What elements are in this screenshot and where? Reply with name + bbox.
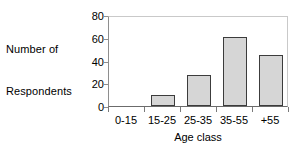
x-axis-tick-label: +55 (261, 114, 280, 127)
x-axis-tick-mark (144, 107, 145, 112)
bar-chart-figure: Number of Respondents 020406080 0-1515-2… (0, 0, 301, 154)
bar[interactable] (151, 95, 175, 106)
bar[interactable] (223, 37, 247, 106)
x-axis-tick-label: 15-25 (148, 114, 176, 127)
y-axis-tick-label: 20 (78, 79, 104, 90)
bar[interactable] (259, 55, 283, 106)
x-axis-tick-marks (108, 107, 289, 112)
y-axis-tick-labels: 020406080 (76, 16, 104, 107)
x-axis-tick-mark (288, 107, 289, 112)
x-axis-tick-mark (252, 107, 253, 112)
bar-slot (145, 17, 181, 106)
y-axis-tick-label: 80 (78, 11, 104, 22)
x-axis-tick-label: 0-15 (115, 114, 137, 127)
plot-area (108, 16, 288, 107)
x-axis-tick-mark (216, 107, 217, 112)
x-axis-tick-labels: 0-1515-2525-3535-55+55 (108, 114, 288, 128)
y-axis-tick-label: 60 (78, 34, 104, 45)
y-axis-tick-label: 0 (78, 102, 104, 113)
bar-slot (253, 17, 289, 106)
x-axis-tick-label: 25-35 (184, 114, 212, 127)
x-axis-tick-mark (108, 107, 109, 112)
bar-slot (217, 17, 253, 106)
bar[interactable] (187, 75, 211, 106)
x-axis-title: Age class (108, 131, 288, 144)
x-axis-tick-mark (180, 107, 181, 112)
bar-slot (181, 17, 217, 106)
bar-slot (109, 17, 145, 106)
x-axis-tick-label: 35-55 (220, 114, 248, 127)
y-axis-tick-label: 40 (78, 57, 104, 68)
bar-series (109, 17, 287, 106)
